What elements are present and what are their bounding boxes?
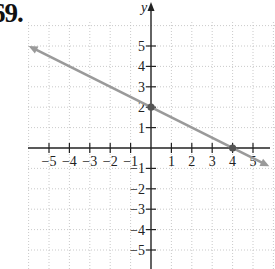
y-tick-label: 4 [138, 59, 145, 74]
y-tick-label: 3 [138, 80, 145, 95]
y-tick-label: −2 [130, 182, 145, 197]
y-axis-label: y [139, 0, 148, 15]
intercept-point [229, 144, 236, 151]
y-tick-label: −3 [130, 202, 145, 217]
axes [28, 2, 270, 269]
x-tick-label: 3 [209, 154, 216, 169]
y-tick-label: 5 [138, 39, 145, 54]
x-tick-labels: −5−4−3−2−112345 [42, 154, 257, 169]
x-tick-label: −4 [62, 154, 77, 169]
x-tick-label: −2 [103, 154, 118, 169]
intercept-point [147, 104, 154, 111]
y-tick-label: −5 [130, 243, 145, 258]
x-tick-label: 4 [229, 154, 236, 169]
coordinate-plane: −5−4−3−2−112345 54321−1−2−3−4−5 y [0, 0, 275, 269]
y-tick-label: 1 [138, 121, 145, 136]
x-tick-label: 1 [168, 154, 175, 169]
y-axis-arrow-icon [148, 2, 155, 11]
y-tick-label: −1 [130, 161, 145, 176]
y-tick-label: −4 [130, 223, 145, 238]
x-tick-label: −3 [82, 154, 97, 169]
x-tick-label: 2 [188, 154, 195, 169]
x-tick-label: −5 [42, 154, 57, 169]
